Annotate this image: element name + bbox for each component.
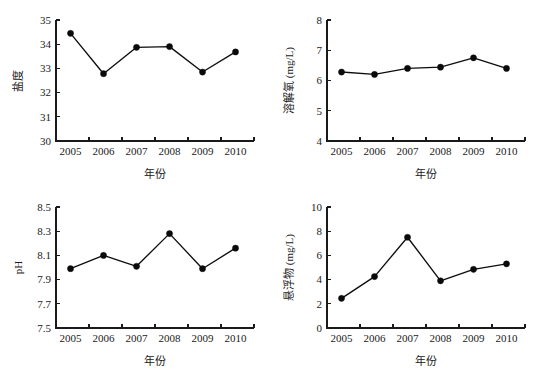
chart-panel-salinity: 303132333435200520062007200820092010年份盐度 — [0, 0, 270, 186]
x-tick-label: 2007 — [397, 332, 420, 344]
data-point-marker — [371, 71, 377, 77]
y-tick-label: 8 — [317, 14, 323, 26]
data-point-marker — [338, 295, 344, 301]
data-point-marker — [404, 65, 410, 71]
y-tick-label: 7.9 — [37, 273, 51, 285]
y-tick-label: 7.5 — [37, 322, 51, 334]
data-point-marker — [133, 44, 139, 50]
x-tick-label: 2005 — [331, 145, 354, 157]
data-point-marker — [470, 266, 476, 272]
data-point-marker — [100, 252, 106, 258]
x-tick-label: 2005 — [60, 332, 83, 344]
x-tick-label: 2008 — [430, 145, 453, 157]
y-tick-label: 2 — [317, 298, 323, 310]
data-point-marker — [404, 234, 410, 240]
y-axis-title: 溶解氧 (mg/L) — [282, 47, 296, 114]
x-axis-title: 年份 — [144, 167, 166, 180]
data-series-line — [342, 58, 507, 75]
y-tick-label: 8.1 — [37, 249, 51, 261]
y-tick-label: 4 — [317, 273, 323, 285]
ph-line-chart: 7.57.77.98.18.38.52005200620072008200920… — [0, 187, 270, 373]
data-point-marker — [503, 65, 509, 71]
figure-canvas: 303132333435200520062007200820092010年份盐度… — [0, 0, 541, 373]
x-tick-label: 2006 — [364, 332, 387, 344]
x-tick-label: 2009 — [192, 145, 215, 157]
x-tick-label: 2008 — [159, 332, 182, 344]
axis-spine — [56, 207, 254, 328]
y-tick-label: 7.7 — [37, 298, 51, 310]
chart-panel-dissolved-oxygen: 45678200520062007200820092010年份溶解氧 (mg/L… — [271, 0, 541, 186]
y-tick-label: 33 — [40, 62, 52, 74]
data-point-marker — [437, 64, 443, 70]
x-tick-label: 2009 — [463, 332, 486, 344]
data-point-marker — [503, 261, 509, 267]
y-tick-label: 32 — [40, 86, 51, 98]
y-tick-label: 10 — [311, 201, 323, 213]
y-tick-label: 8 — [317, 225, 323, 237]
data-point-marker — [166, 44, 172, 50]
y-tick-label: 6 — [317, 249, 323, 261]
chart-panel-suspended-solids: 0246810200520062007200820092010年份悬浮物 (mg… — [271, 187, 541, 373]
axis-spine — [327, 20, 525, 141]
data-point-marker — [470, 55, 476, 61]
data-point-marker — [437, 278, 443, 284]
axis-spine — [56, 20, 254, 141]
x-tick-label: 2006 — [93, 145, 116, 157]
x-tick-label: 2007 — [126, 332, 149, 344]
data-point-marker — [232, 245, 238, 251]
data-series-line — [71, 33, 236, 73]
y-tick-label: 8.3 — [37, 225, 51, 237]
y-tick-label: 8.5 — [37, 201, 51, 213]
y-tick-label: 5 — [317, 105, 323, 117]
data-point-marker — [133, 263, 139, 269]
x-axis-title: 年份 — [144, 354, 166, 367]
salinity-line-chart: 303132333435200520062007200820092010年份盐度 — [0, 0, 270, 186]
x-tick-label: 2007 — [126, 145, 149, 157]
x-tick-label: 2009 — [463, 145, 486, 157]
x-tick-label: 2007 — [397, 145, 420, 157]
data-series-line — [71, 234, 236, 269]
data-point-marker — [67, 30, 73, 36]
data-point-marker — [199, 266, 205, 272]
data-series-line — [342, 237, 507, 298]
y-tick-label: 34 — [40, 38, 52, 50]
axis-spine — [327, 207, 525, 328]
x-tick-label: 2008 — [430, 332, 453, 344]
y-tick-label: 6 — [317, 74, 323, 86]
dissolved-oxygen-line-chart: 45678200520062007200820092010年份溶解氧 (mg/L… — [271, 0, 541, 186]
x-tick-label: 2010 — [496, 145, 519, 157]
x-tick-label: 2010 — [225, 332, 248, 344]
y-axis-title: 盐度 — [11, 70, 24, 92]
chart-panel-ph: 7.57.77.98.18.38.52005200620072008200920… — [0, 187, 270, 373]
data-point-marker — [67, 266, 73, 272]
y-axis-title: pH — [12, 261, 24, 275]
x-axis-title: 年份 — [415, 167, 437, 180]
x-tick-label: 2005 — [60, 145, 83, 157]
y-tick-label: 7 — [317, 44, 323, 56]
x-tick-label: 2005 — [331, 332, 354, 344]
data-point-marker — [100, 71, 106, 77]
y-tick-label: 30 — [40, 135, 52, 147]
x-tick-label: 2008 — [159, 145, 182, 157]
y-tick-label: 35 — [40, 14, 52, 26]
data-point-marker — [338, 69, 344, 75]
x-tick-label: 2009 — [192, 332, 215, 344]
x-tick-label: 2010 — [225, 145, 248, 157]
y-tick-label: 0 — [317, 322, 323, 334]
x-tick-label: 2010 — [496, 332, 519, 344]
suspended-solids-line-chart: 0246810200520062007200820092010年份悬浮物 (mg… — [271, 187, 541, 373]
y-tick-label: 31 — [40, 111, 51, 123]
data-point-marker — [232, 49, 238, 55]
x-tick-label: 2006 — [93, 332, 116, 344]
data-point-marker — [166, 231, 172, 237]
y-axis-title: 悬浮物 (mg/L) — [282, 234, 296, 301]
y-tick-label: 4 — [317, 135, 323, 147]
data-point-marker — [371, 273, 377, 279]
x-axis-title: 年份 — [415, 354, 437, 367]
x-tick-label: 2006 — [364, 145, 387, 157]
data-point-marker — [199, 69, 205, 75]
